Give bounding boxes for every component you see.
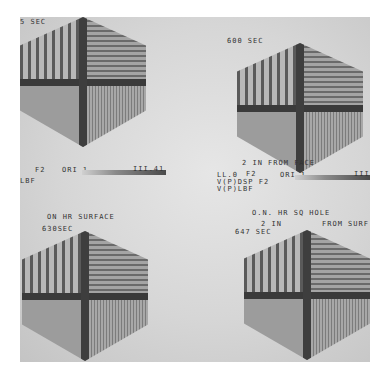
scan-photograph: 5 SEC 600 SEC 2 IN FROM FACE F2 ORI 1 II…	[20, 17, 370, 362]
scale-left-f-label: F2	[35, 167, 45, 174]
hex-scan-top-right	[237, 43, 363, 173]
caption-bottom-right-line2a: 2 IN	[261, 221, 282, 228]
scale-right-f-label: F2	[246, 171, 256, 178]
caption-bottom-right-line2b: FROM SURF	[322, 221, 369, 228]
caption-bottom-left: ON HR SURFACE	[47, 214, 115, 221]
time-label-bottom-left: 630SEC	[42, 226, 73, 233]
time-label-top-right: 600 SEC	[227, 38, 264, 45]
hex-scan-bottom-left	[22, 231, 148, 361]
caption-top-right: 2 IN FROM FACE	[242, 160, 315, 167]
scale-right-line3: V(P)LBF	[217, 186, 254, 193]
time-label-top-left: 5 SEC	[20, 19, 46, 26]
scale-left-end-label: III.41	[133, 166, 164, 173]
hex-scan-bottom-right	[244, 230, 370, 360]
scale-left-sub-label: LBF	[20, 178, 36, 185]
time-label-bottom-right: 647 SEC	[235, 229, 272, 236]
scale-right-end-label: III.T	[354, 171, 370, 178]
caption-bottom-right-line1: O.N. HR SQ HOLE	[252, 210, 330, 217]
hex-scan-top-left	[20, 17, 146, 147]
